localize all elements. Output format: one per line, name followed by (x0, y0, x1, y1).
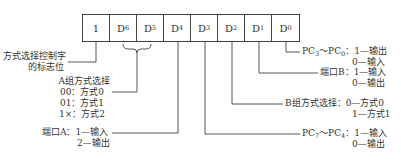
port-a-title: 端口A： (42, 127, 76, 137)
flag-label-line2: 的标志位 (2, 62, 66, 73)
register-cell-d6: D6 (109, 14, 137, 42)
cell-sub: 2 (233, 24, 237, 32)
pc-high-colon: ： (345, 128, 354, 138)
group-b-opt1: 0—方式0 (346, 98, 384, 108)
pc-low-opt1: 1—输出 (354, 46, 387, 56)
cell-text: D (117, 23, 125, 34)
pc-low-colon: ： (345, 46, 354, 56)
control-word-diagram: 1 D6 D5 D4 D3 D2 D1 D0 方式选择控制字 的标志位 A组方式… (0, 0, 401, 162)
group-a-connector (112, 53, 137, 92)
cell-text: D (252, 23, 260, 34)
register-cell-flag: 1 (82, 14, 110, 42)
pc-high-opt1: 1—输入 (354, 128, 387, 138)
group-a-option-1x: 1×：方式2 (52, 109, 112, 120)
pc-high-connector (205, 42, 300, 134)
register-cell-d2: D2 (217, 14, 245, 42)
port-b-title: 端口B： (320, 67, 354, 77)
cell-sub: 5 (152, 24, 156, 32)
cell-text: D (198, 23, 206, 34)
flag-connector (68, 42, 96, 62)
pc-low-pre: PC (302, 46, 315, 56)
cell-text: D (225, 23, 233, 34)
pc-high-opt2: 0—输出 (352, 139, 385, 150)
port-b-label: 端口B：1—输入 (320, 67, 386, 78)
d6d5-brace (123, 44, 151, 53)
group-a-title: A组方式选择 (52, 76, 112, 87)
port-a-connector (112, 42, 178, 133)
port-a-opt2: 2—输出 (77, 138, 110, 149)
cell-sub: 4 (179, 24, 183, 32)
pc-high-mid: ～PC (319, 128, 341, 138)
port-b-opt1: 1—输入 (354, 67, 387, 77)
group-b-label: B组方式选择：0—方式0 (285, 98, 384, 109)
group-b-title: B组方式选择： (285, 98, 346, 108)
cell-text: D (144, 23, 152, 34)
pc-high-pre: PC (302, 128, 315, 138)
pc-low-mid: ～PC (319, 46, 341, 56)
register-cell-d0: D0 (271, 14, 300, 42)
pc-low-connector (286, 42, 300, 52)
register-cell-d4: D4 (163, 14, 191, 42)
cell-text: D (279, 23, 287, 34)
flag-label: 方式选择控制字 的标志位 (2, 51, 66, 73)
cell-sub: 1 (260, 24, 264, 32)
cell-text: 1 (93, 23, 99, 34)
cell-sub: 3 (206, 24, 210, 32)
group-b-opt2: 1—方式1 (352, 109, 390, 120)
register-cell-d3: D3 (190, 14, 218, 42)
register-cell-d5: D5 (136, 14, 164, 42)
port-a-label: 端口A：1—输入 (42, 127, 108, 138)
port-a-opt1: 1—输入 (76, 127, 109, 137)
cell-sub: 0 (287, 24, 291, 32)
group-a-option-00: 00：方式0 (52, 87, 112, 98)
cell-sub: 6 (125, 24, 129, 32)
port-b-opt2: 0—输出 (352, 78, 385, 89)
cell-text: D (171, 23, 179, 34)
register-cell-d1: D1 (244, 14, 272, 42)
group-a-option-01: 01：方式1 (52, 98, 112, 109)
flag-label-line1: 方式选择控制字 (2, 51, 66, 62)
group-a-label: A组方式选择 00：方式0 01：方式1 1×：方式2 (52, 76, 112, 120)
